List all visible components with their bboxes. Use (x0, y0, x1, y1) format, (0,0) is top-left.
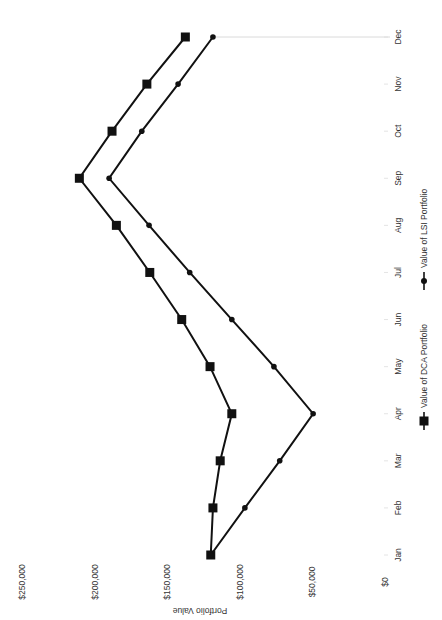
month-label: Jul (393, 267, 403, 278)
month-label: Apr (393, 407, 403, 420)
data-point-circle (139, 128, 145, 134)
legend-label-lsi: Value of LSI Portfolio (419, 189, 429, 268)
month-label: Sep (393, 170, 403, 185)
data-point-circle (229, 317, 235, 323)
month-label: Nov (393, 76, 403, 92)
month-label: Dec (393, 29, 403, 45)
data-point-circle (210, 34, 216, 40)
square-marker-icon (420, 417, 429, 426)
data-point-circle (310, 411, 316, 417)
value-axis: $0$50,000$100,000$150,000$200,000$250,00… (17, 564, 390, 600)
data-point-square (108, 127, 117, 136)
data-point-square (208, 503, 217, 512)
data-point-circle (187, 270, 193, 276)
legend-item-dca: Value of DCA Portfolio (419, 324, 429, 430)
month-label: Jan (393, 548, 403, 562)
legend-item-lsi: Value of LSI Portfolio (419, 189, 429, 290)
y-axis-title: Portfolio Value (172, 606, 227, 616)
circle-marker-icon (421, 278, 427, 284)
month-label: Feb (393, 500, 403, 515)
data-point-square (145, 268, 154, 277)
data-point-circle (277, 458, 283, 464)
month-label: Aug (393, 218, 403, 233)
value-tick-label: $200,000 (90, 564, 100, 600)
data-point-circle (208, 552, 214, 558)
month-label: Mar (393, 453, 403, 468)
value-tick-label: $0 (380, 577, 390, 587)
series-line (109, 37, 313, 555)
month-axis: JanFebMarAprMayJunJulAugSepOctNovDec (384, 29, 403, 562)
month-label: Oct (393, 124, 403, 138)
series-lsi (106, 34, 316, 558)
value-tick-label: $250,000 (17, 564, 27, 600)
month-label: May (393, 358, 403, 375)
data-point-square (216, 456, 225, 465)
legend-label-dca: Value of DCA Portfolio (419, 324, 429, 408)
data-point-square (206, 362, 215, 371)
data-point-circle (175, 81, 181, 87)
data-point-circle (242, 505, 248, 511)
data-point-square (181, 33, 190, 42)
data-point-square (75, 174, 84, 183)
series-layer (75, 33, 316, 560)
data-point-square (142, 80, 151, 89)
portfolio-value-chart: JanFebMarAprMayJunJulAugSepOctNovDec $0$… (0, 0, 442, 620)
data-point-square (177, 315, 186, 324)
value-tick-label: $150,000 (162, 564, 172, 600)
value-tick-label: $100,000 (235, 564, 245, 600)
data-point-square (112, 221, 121, 230)
data-point-square (227, 409, 236, 418)
legend: Value of DCA Portfolio Value of LSI Port… (419, 189, 429, 430)
data-point-circle (271, 364, 277, 370)
data-point-circle (106, 175, 112, 181)
month-label: Jun (393, 312, 403, 326)
data-point-circle (146, 223, 152, 229)
value-tick-label: $50,000 (307, 566, 317, 597)
